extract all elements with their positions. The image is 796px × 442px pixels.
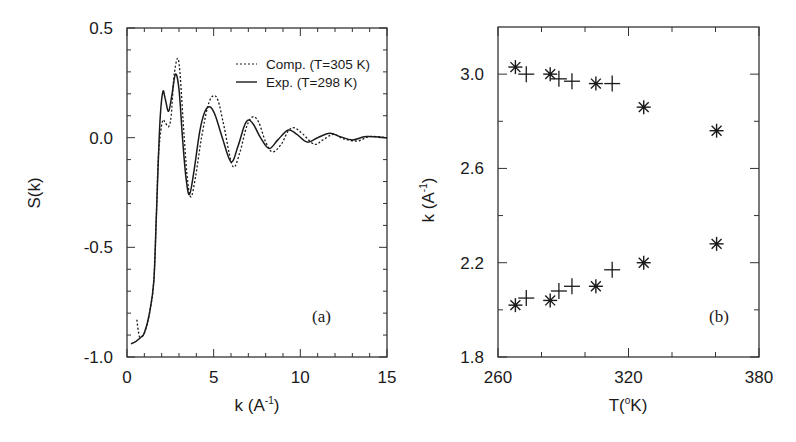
asterisk-marker	[637, 256, 651, 270]
x-tick-label: 380	[745, 368, 773, 387]
exp-curve	[131, 74, 387, 344]
asterisk-marker	[589, 279, 603, 293]
legend-label-comp: Comp. (T=305 K)	[266, 57, 370, 72]
y-tick-label: 2.6	[460, 159, 484, 178]
plus-marker	[564, 73, 580, 89]
panel-b-temperature-plot: 2603203801.82.22.63.0 (b) k (A-1) T(oK)	[418, 27, 773, 415]
y-tick-label: -1.0	[84, 348, 113, 367]
panel-a-xlabel: k (A-1)	[235, 395, 280, 415]
y-tick-label: 0.5	[89, 19, 113, 38]
y-tick-label: 1.8	[460, 348, 484, 367]
plus-marker	[604, 262, 620, 278]
y-tick-label: 0.0	[89, 129, 113, 148]
x-tick-label: 5	[209, 368, 218, 387]
asterisk-marker	[710, 124, 724, 138]
asterisk-marker	[543, 293, 557, 307]
asterisk-marker	[589, 77, 603, 91]
x-tick-label: 15	[378, 368, 397, 387]
y-tick-label: 3.0	[460, 65, 484, 84]
panel-a-ylabel: S(k)	[25, 177, 44, 208]
x-tick-label: 260	[484, 368, 512, 387]
panel-b-annotation: (b)	[709, 307, 729, 326]
y-tick-label: -0.5	[84, 238, 113, 257]
panel-a-legend: Comp. (T=305 K) Exp. (T=298 K)	[236, 57, 370, 90]
panel-a-annotation: (a)	[312, 307, 331, 326]
x-tick-label: 0	[122, 368, 131, 387]
plus-marker	[518, 66, 534, 82]
y-tick-label: 2.2	[460, 254, 484, 273]
panel-b-markers	[508, 60, 723, 312]
figure: 051015-1.0-0.50.00.5 Comp. (T=305 K) Exp…	[0, 0, 796, 442]
x-tick-label: 10	[291, 368, 310, 387]
plus-marker	[604, 76, 620, 92]
plus-marker	[564, 278, 580, 294]
plus-marker	[551, 71, 567, 87]
comp-curve	[137, 58, 387, 337]
plus-marker	[518, 290, 534, 306]
x-tick-label: 320	[614, 368, 642, 387]
panel-b-ylabel: k (A-1)	[418, 178, 438, 223]
panel-b-xlabel: T(oK)	[609, 395, 648, 415]
asterisk-marker	[637, 100, 651, 114]
legend-label-exp: Exp. (T=298 K)	[266, 75, 357, 90]
panel-b-tick-labels: 2603203801.82.22.63.0	[460, 65, 773, 387]
asterisk-marker	[508, 298, 522, 312]
panel-a-structure-factor-plot: 051015-1.0-0.50.00.5 Comp. (T=305 K) Exp…	[25, 19, 396, 415]
panel-a-curves	[131, 58, 387, 343]
asterisk-marker	[508, 60, 522, 74]
asterisk-marker	[710, 237, 724, 251]
